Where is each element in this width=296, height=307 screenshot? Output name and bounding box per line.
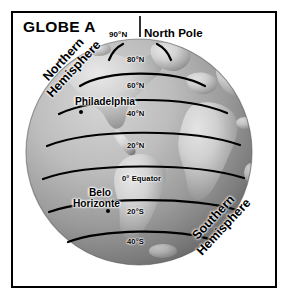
- latitude-label-80N: 80°N: [126, 55, 145, 64]
- city-label-belo-horizonte-line1: Belo: [89, 188, 111, 199]
- latitude-label-equator: 0° Equator: [121, 174, 162, 183]
- page-title: GLOBE A: [23, 18, 96, 36]
- city-label-belo-horizonte-line2: Horizonte: [73, 199, 120, 210]
- figure-canvas: GLOBE A: [0, 0, 296, 307]
- latitude-label-20S: 20°S: [126, 207, 145, 216]
- north-pole-label: North Pole: [144, 26, 203, 39]
- latitude-label-20N: 20°N: [126, 141, 145, 150]
- latitude-label-40N: 40°N: [126, 109, 145, 118]
- city-label-philadelphia: Philadelphia: [75, 97, 135, 108]
- globe-figure-frame: GLOBE A: [11, 11, 277, 288]
- latitude-label-40S: 40°S: [126, 237, 145, 246]
- latitude-label-60N: 60°N: [126, 81, 145, 90]
